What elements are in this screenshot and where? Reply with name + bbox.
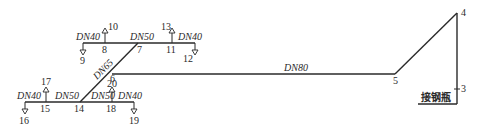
node-label: 16 xyxy=(19,115,29,126)
node-label: 5 xyxy=(393,75,398,86)
node-label: 7 xyxy=(137,44,142,55)
outlet-down-icon-19 xyxy=(131,109,137,114)
outlet-down-icon-16 xyxy=(22,109,28,114)
node-label: 8 xyxy=(102,44,107,55)
node-label: 12 xyxy=(183,53,193,64)
dn-label: DN40 xyxy=(16,90,41,101)
bottle-label: 接钢瓶 xyxy=(421,91,451,103)
outlet-up-icon-17 xyxy=(43,87,49,92)
node-label: 19 xyxy=(129,115,139,126)
node-label: 15 xyxy=(40,103,50,114)
node-label: 4 xyxy=(461,7,466,18)
node-label: 11 xyxy=(166,44,176,55)
dn-label: DN40 xyxy=(75,31,100,42)
node-label: 9 xyxy=(80,55,85,66)
dn-label: DN40 xyxy=(117,90,142,101)
dn-label: DN50 xyxy=(54,90,79,101)
node-label: 20 xyxy=(107,78,117,89)
dn-label: DN50 xyxy=(90,90,115,101)
pipe-diagram: DN40 DN50 DN40 DN65 DN80 DN40 DN50 DN50 … xyxy=(0,0,478,132)
dn-label: DN40 xyxy=(177,31,202,42)
node-label: 13 xyxy=(161,21,171,32)
node-label: 3 xyxy=(461,83,466,94)
dn-label: DN50 xyxy=(129,31,154,42)
dn-label: DN80 xyxy=(283,62,308,73)
pipe-riser xyxy=(395,13,457,74)
node-label: 18 xyxy=(106,103,116,114)
node-label: 10 xyxy=(108,21,118,32)
node-label: 14 xyxy=(74,103,84,114)
node-label: 17 xyxy=(41,76,51,87)
